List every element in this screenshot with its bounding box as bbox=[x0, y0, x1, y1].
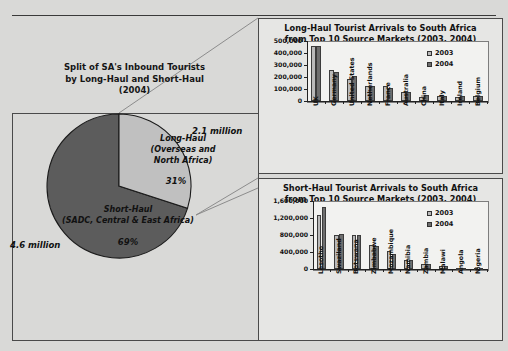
pie-title-line-3: (2004) bbox=[22, 85, 247, 97]
long-haul-x-tick bbox=[487, 101, 488, 104]
long-haul-bar-uk-2004 bbox=[316, 46, 320, 101]
short-haul-x-label-zambia: Zambia bbox=[422, 248, 429, 274]
long-haul-y-tick bbox=[304, 41, 307, 42]
short-haul-x-tick bbox=[330, 269, 331, 272]
long-haul-y-tick-label: 300,000 bbox=[259, 61, 302, 68]
short-haul-x-tick bbox=[470, 269, 471, 272]
short-haul-x-label-botswana: Botswana bbox=[352, 239, 359, 274]
short-haul-x-label-namibia: Namibia bbox=[404, 245, 411, 274]
long-haul-x-label-ireland: Ireland bbox=[456, 81, 463, 106]
long-haul-y-axis bbox=[307, 41, 308, 101]
legend-swatch-icon bbox=[427, 222, 432, 227]
long-haul-y-tick-label: 0 bbox=[259, 97, 302, 104]
short-haul-y-tick-label: 1,200,000 bbox=[259, 214, 308, 221]
long-haul-x-label-italy: Italy bbox=[438, 90, 445, 106]
short-haul-y-tick bbox=[310, 201, 313, 202]
short-haul-x-tick bbox=[487, 269, 488, 272]
short-haul-x-tick bbox=[383, 269, 384, 272]
short-haul-y-axis bbox=[313, 201, 314, 269]
short-haul-legend-label: 2003 bbox=[435, 209, 453, 217]
long-haul-x-label-netherlands: Netherlands bbox=[366, 62, 373, 106]
page-root: Split of SA's Inbound Tourists by Long-H… bbox=[0, 0, 508, 351]
short-haul-x-tick bbox=[435, 269, 436, 272]
long-haul-x-tick bbox=[451, 101, 452, 104]
long-haul-y-tick bbox=[304, 53, 307, 54]
short-haul-x-tick bbox=[365, 269, 366, 272]
short-haul-legend-label: 2004 bbox=[435, 220, 453, 228]
long-haul-y-tick-label: 100,000 bbox=[259, 85, 302, 92]
short-haul-y-tick bbox=[310, 252, 313, 253]
pie-label-short-haul-line-1: Short-Haul bbox=[48, 204, 208, 215]
long-haul-x-tick bbox=[325, 101, 326, 104]
short-haul-x-label-mozambique: Mozambique bbox=[387, 229, 394, 274]
long-haul-y-tick bbox=[304, 101, 307, 102]
long-haul-x-label-belgium: Belgium bbox=[474, 77, 481, 106]
pie-title-line-2: by Long-Haul and Short-Haul bbox=[22, 74, 247, 86]
legend-swatch-icon bbox=[427, 211, 432, 216]
pie-label-long-haul: Long-Haul (Overseas and North Africa) bbox=[137, 133, 229, 166]
short-haul-x-label-angola: Angola bbox=[457, 249, 464, 274]
short-haul-x-label-malawi: Malawi bbox=[439, 249, 446, 274]
legend-swatch-icon bbox=[427, 51, 432, 56]
short-haul-x-label-zimbabwe: Zimbabwe bbox=[370, 237, 377, 274]
long-haul-y-tick-label: 500,000 bbox=[259, 37, 302, 44]
short-haul-y-tick bbox=[310, 269, 313, 270]
long-haul-legend: 20032004 bbox=[427, 49, 453, 71]
pie-label-long-haul-line-2: (Overseas and bbox=[137, 144, 229, 155]
long-haul-x-label-united-states: United States bbox=[348, 57, 355, 106]
short-haul-legend-item-2004: 2004 bbox=[427, 220, 453, 228]
short-haul-x-label-nigeria: Nigeria bbox=[474, 248, 481, 274]
long-haul-x-label-australia: Australia bbox=[402, 74, 409, 106]
long-haul-legend-item-2003: 2003 bbox=[427, 49, 453, 57]
long-haul-x-label-china: China bbox=[420, 86, 427, 106]
pie-annotation-short-haul-total: 4.6 million bbox=[10, 240, 60, 250]
long-haul-y-tick-label: 200,000 bbox=[259, 73, 302, 80]
short-haul-chart-panel: Short-Haul Tourist Arrivals to South Afr… bbox=[258, 178, 503, 341]
long-haul-x-label-france: France bbox=[384, 82, 391, 106]
short-haul-x-tick bbox=[348, 269, 349, 272]
pie-label-short-haul: Short-Haul (SADC, Central & East Africa) bbox=[48, 204, 208, 226]
short-haul-x-label-lesotho: Lesotho bbox=[317, 246, 324, 274]
long-haul-y-tick-label: 400,000 bbox=[259, 49, 302, 56]
pie-label-long-haul-line-3: North Africa) bbox=[137, 155, 229, 166]
long-haul-y-tick bbox=[304, 65, 307, 66]
pie-chart-title: Split of SA's Inbound Tourists by Long-H… bbox=[22, 62, 247, 97]
short-haul-y-tick-label: 1,600,000 bbox=[259, 197, 308, 204]
long-haul-x-label-germany: Germany bbox=[330, 74, 337, 106]
long-haul-x-tick bbox=[415, 101, 416, 104]
long-haul-bar-uk-2003 bbox=[311, 46, 315, 101]
long-haul-x-label-uk: UK bbox=[312, 96, 319, 106]
short-haul-y-tick-label: 800,000 bbox=[259, 231, 308, 238]
short-haul-x-label-swaziland: Swaziland bbox=[335, 238, 342, 274]
legend-swatch-icon bbox=[427, 62, 432, 67]
short-haul-x-tick bbox=[400, 269, 401, 272]
pie-title-line-1: Split of SA's Inbound Tourists bbox=[22, 62, 247, 74]
long-haul-plot-area: 0100,000200,000300,000400,000500,000UKGe… bbox=[259, 19, 500, 171]
short-haul-y-tick bbox=[310, 235, 313, 236]
long-haul-legend-label: 2003 bbox=[435, 49, 453, 57]
long-haul-x-tick bbox=[397, 101, 398, 104]
long-haul-legend-item-2004: 2004 bbox=[427, 60, 453, 68]
short-haul-x-tick bbox=[452, 269, 453, 272]
short-haul-legend-item-2003: 2003 bbox=[427, 209, 453, 217]
long-haul-x-tick bbox=[361, 101, 362, 104]
long-haul-y-tick bbox=[304, 77, 307, 78]
pie-value-short-haul-pct: 69% bbox=[98, 237, 158, 247]
long-haul-chart-panel: Long-Haul Tourist Arrivals to South Afri… bbox=[258, 18, 503, 174]
long-haul-x-tick bbox=[469, 101, 470, 104]
long-haul-y-tick bbox=[304, 89, 307, 90]
long-haul-x-tick bbox=[433, 101, 434, 104]
short-haul-x-tick bbox=[417, 269, 418, 272]
short-haul-y-tick-label: 0 bbox=[259, 265, 308, 272]
pie-annotation-long-haul-total: 2.1 million bbox=[192, 126, 242, 136]
long-haul-x-tick bbox=[343, 101, 344, 104]
short-haul-y-tick bbox=[310, 218, 313, 219]
short-haul-legend: 20032004 bbox=[427, 209, 453, 231]
short-haul-y-tick-label: 400,000 bbox=[259, 248, 308, 255]
long-haul-x-tick bbox=[379, 101, 380, 104]
top-divider bbox=[12, 15, 496, 16]
long-haul-legend-label: 2004 bbox=[435, 60, 453, 68]
pie-label-short-haul-line-2: (SADC, Central & East Africa) bbox=[48, 215, 208, 226]
short-haul-plot-area: 0400,000800,0001,200,0001,600,000Lesotho… bbox=[259, 179, 500, 338]
pie-value-long-haul-pct: 31% bbox=[146, 176, 206, 186]
